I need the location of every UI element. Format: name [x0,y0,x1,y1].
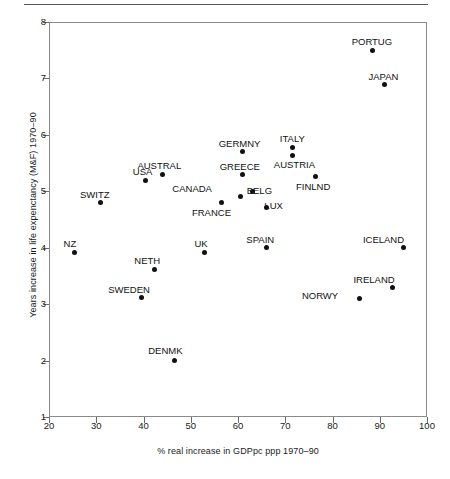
scatter-point [290,153,295,158]
page-edge-artifact [22,469,222,479]
scatter-point [370,48,375,53]
point-label: FRANCE [192,208,231,218]
scatter-point [219,200,224,205]
point-label: IRELAND [353,275,394,285]
figure-container: 123456782030405060708090100 PORTUGJAPANG… [0,0,450,479]
point-label: SWEDEN [108,285,150,295]
point-label: NORWY [302,291,338,301]
point-label: UK [194,239,207,249]
x-tick-label: 80 [318,421,348,431]
x-tick-label: 100 [412,421,442,431]
point-label: DENMK [148,346,182,356]
point-label: SWITZ [80,190,110,200]
x-tick-label: 20 [34,421,64,431]
point-label: FINLND [296,182,330,192]
point-label: USA [133,167,153,177]
point-label: LUX [264,201,282,211]
point-label: PORTUG [352,37,392,47]
point-label: BELG [247,186,272,196]
x-tick-label: 90 [365,421,395,431]
top-horizontal-rule [24,4,428,5]
point-label: ICELAND [363,235,404,245]
scatter-point [152,267,157,272]
scatter-point [160,172,165,177]
scatter-point [98,200,103,205]
y-axis-label: Years increase in life expenctancy (M&F)… [28,100,38,330]
scatter-point [238,194,243,199]
x-tick-label: 40 [129,421,159,431]
x-tick-label: 30 [81,421,111,431]
scatter-point [72,250,77,255]
point-label: CANADA [172,184,212,194]
x-tick-label: 60 [223,421,253,431]
point-label: NETH [134,256,160,266]
scatter-point [172,358,177,363]
y-tick-label: 7 [24,73,46,83]
y-tick-label: 8 [24,17,46,27]
scatter-point [143,178,148,183]
point-label: AUSTRIA [274,160,315,170]
point-label: ITALY [280,134,305,144]
point-label: GERMNY [219,139,261,149]
point-label: GREECE [220,162,260,172]
x-tick-label: 50 [176,421,206,431]
x-tick-label: 70 [270,421,300,431]
y-tick-label: 2 [24,356,46,366]
point-label: JAPAN [368,72,398,82]
point-label: SPAIN [246,235,274,245]
point-label: NZ [64,239,77,249]
x-axis-label: % real increase in GDPpc ppp 1970–90 [49,446,427,456]
